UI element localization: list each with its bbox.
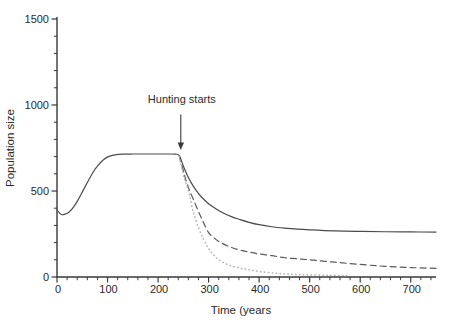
x-tick-label: 400 <box>251 283 269 295</box>
population-chart: 0100200300400500600700050010001500 Popul… <box>0 0 452 330</box>
x-tick-label: 600 <box>352 283 370 295</box>
x-tick-label: 0 <box>55 283 61 295</box>
y-axis-title: Population size <box>4 109 16 187</box>
x-tick-label: 200 <box>150 283 168 295</box>
series-dotted <box>179 157 350 276</box>
x-tick-label: 500 <box>301 283 319 295</box>
y-tick-label: 1000 <box>25 99 49 111</box>
y-tick-label: 1500 <box>25 13 49 25</box>
annotation-arrowhead-icon <box>178 143 184 151</box>
chart-generated-layer: 0100200300400500600700050010001500 <box>25 13 436 295</box>
y-tick-label: 500 <box>31 185 49 197</box>
y-tick-label: 0 <box>43 271 49 283</box>
x-tick-label: 100 <box>99 283 117 295</box>
series-solid <box>57 154 436 232</box>
chart-figure: 0100200300400500600700050010001500 Popul… <box>0 0 452 330</box>
x-tick-label: 300 <box>200 283 218 295</box>
series-dashed <box>179 156 436 268</box>
axes-lines <box>57 17 436 277</box>
annotation-hunting-starts: Hunting starts <box>148 93 216 105</box>
x-tick-label: 700 <box>403 283 421 295</box>
x-axis-title: Time (years <box>211 304 272 316</box>
